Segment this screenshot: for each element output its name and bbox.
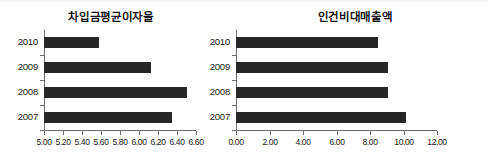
y-axis-tick [232,55,236,56]
y-axis-label-2010: 2010 [200,36,230,47]
y-axis-label-2007: 2007 [200,111,230,122]
y-axis-tick [40,80,44,81]
bar-2010 [44,37,99,48]
x-axis-tick [139,131,140,135]
plot-area-left: 20102009200820075.005.205.405.605.806.00… [44,30,196,130]
y-axis-tick [40,105,44,106]
x-axis-tick [120,131,121,135]
chart-title-left: 차입금평균이자율 [0,8,222,24]
x-axis-tick-label: 6.60 [176,137,216,147]
bar-2008 [236,87,388,98]
x-axis-tick [158,131,159,135]
two-chart-figure: 차입금평균이자율 20102009200820075.005.205.405.6… [0,0,488,161]
x-axis-tick [236,131,237,135]
x-axis-tick-label: 12.00 [417,137,457,147]
y-axis-tick [232,80,236,81]
x-axis-tick [270,131,271,135]
x-axis-tick [196,131,197,135]
x-axis-tick [437,131,438,135]
x-axis-tick [404,131,405,135]
bar-2007 [44,112,172,123]
y-axis-label-2009: 2009 [8,61,38,72]
x-axis-tick [101,131,102,135]
x-axis-tick [370,131,371,135]
x-axis-tick [177,131,178,135]
y-axis-tick [232,105,236,106]
y-axis-label-2010: 2010 [8,36,38,47]
chart-title-right: 인건비대매출액 [222,8,488,24]
y-axis-label-2007: 2007 [8,111,38,122]
chart-panel-borrowing-average-interest-rate: 차입금평균이자율 20102009200820075.005.205.405.6… [0,0,222,161]
chart-panel-labor-cost-to-sales: 인건비대매출액 20102009200820070.002.004.006.00… [222,0,488,161]
plot-area-right: 20102009200820070.002.004.006.008.0010.0… [236,30,437,130]
bar-2009 [44,62,151,73]
bar-2009 [236,62,388,73]
y-axis-tick [40,55,44,56]
x-axis-tick [63,131,64,135]
x-axis-tick [44,131,45,135]
x-axis-tick [82,131,83,135]
x-axis-tick [337,131,338,135]
bar-2010 [236,37,378,48]
y-axis-label-2008: 2008 [200,86,230,97]
y-axis-label-2009: 2009 [200,61,230,72]
bar-2008 [44,87,187,98]
bar-2007 [236,112,406,123]
x-axis-tick [303,131,304,135]
y-axis-label-2008: 2008 [8,86,38,97]
